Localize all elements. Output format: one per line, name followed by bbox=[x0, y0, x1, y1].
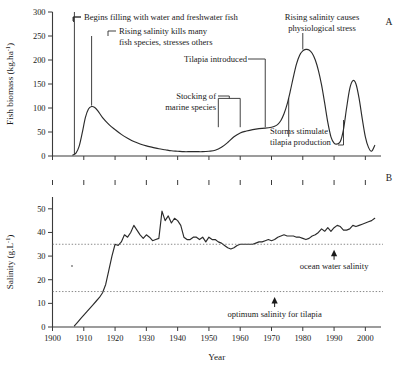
x-tick-label: 1900 bbox=[44, 334, 61, 343]
panel-b-chart: 0102030405019001910192019301940195019601… bbox=[4, 173, 393, 362]
panel-b-y-axis-title: Salinity (g.L-1) bbox=[4, 235, 16, 290]
y-tick-label: 10 bbox=[37, 299, 45, 308]
x-tick-label: 1910 bbox=[75, 334, 92, 343]
x-tick-label: 1960 bbox=[232, 334, 249, 343]
x-tick-label: 1940 bbox=[169, 334, 186, 343]
y-tick-label: 50 bbox=[37, 128, 45, 137]
annot-rising-salinity-kills-line-0: Rising salinity kills many bbox=[119, 26, 208, 36]
y-tick-label: 0 bbox=[41, 323, 45, 332]
axis-lines bbox=[53, 12, 382, 156]
reference-label-optimum-salinity-tilapia: optimum salinity for tilapia bbox=[227, 309, 321, 319]
x-tick-label: 2000 bbox=[357, 334, 374, 343]
x-tick-label: 1990 bbox=[326, 334, 343, 343]
panel-a-label: A bbox=[386, 17, 393, 27]
x-tick-label: 1970 bbox=[263, 334, 280, 343]
x-tick-label: 1920 bbox=[107, 334, 124, 343]
annot-storms-stimulate-line-1: tilapia production bbox=[270, 137, 332, 147]
y-tick-label: 250 bbox=[33, 32, 46, 41]
annot-begins-filling-line-0: Begins filling with water and freshwater… bbox=[84, 12, 238, 22]
leader-rising-kills-bracket bbox=[108, 31, 116, 36]
x-tick-label: 1980 bbox=[294, 334, 311, 343]
y-tick-label: 50 bbox=[37, 205, 45, 214]
x-axis-title: Year bbox=[208, 352, 225, 362]
y-tick-label: 300 bbox=[33, 8, 46, 17]
y-tick-label: 20 bbox=[37, 276, 45, 285]
annot-stocking-marine-species-line-0: Stocking of bbox=[176, 91, 216, 101]
two-panel-figure: 050100150200250300Fish biomass (kg.ha-1)… bbox=[0, 0, 406, 368]
annot-rising-salinity-stress-line-0: Rising salinity causes bbox=[285, 12, 360, 22]
y-tick-label: 100 bbox=[33, 104, 46, 113]
annot-storms-stimulate-line-0: Storms stimulate bbox=[270, 126, 328, 136]
annot-stocking-marine-species-line-1: marine species bbox=[165, 102, 216, 112]
y-tick-label: 200 bbox=[33, 56, 46, 65]
annot-rising-salinity-kills-line-1: fish species, stresses others bbox=[119, 37, 213, 47]
x-tick-label: 1930 bbox=[138, 334, 155, 343]
x-tick-label: 1950 bbox=[201, 334, 218, 343]
y-tick-label: 0 bbox=[41, 152, 45, 161]
scan-artifact-dot bbox=[71, 265, 73, 267]
panel-a-chart: 050100150200250300Fish biomass (kg.ha-1)… bbox=[4, 8, 393, 185]
leader-tilapia-introduced bbox=[248, 59, 265, 127]
panel-a-y-axis-title: Fish biomass (kg.ha-1) bbox=[4, 43, 16, 125]
y-tick-label: 150 bbox=[33, 80, 46, 89]
figure-root: 050100150200250300Fish biomass (kg.ha-1)… bbox=[0, 0, 406, 368]
y-tick-label: 40 bbox=[37, 228, 45, 237]
y-tick-label: 30 bbox=[37, 252, 45, 261]
panel-b-label: B bbox=[386, 173, 392, 183]
reference-label-ocean-water-salinity: ocean water salinity bbox=[300, 261, 369, 271]
annot-tilapia-introduced-line-0: Tilapia introduced bbox=[184, 54, 248, 64]
annot-rising-salinity-stress-line-1: physiological stress bbox=[288, 23, 356, 33]
